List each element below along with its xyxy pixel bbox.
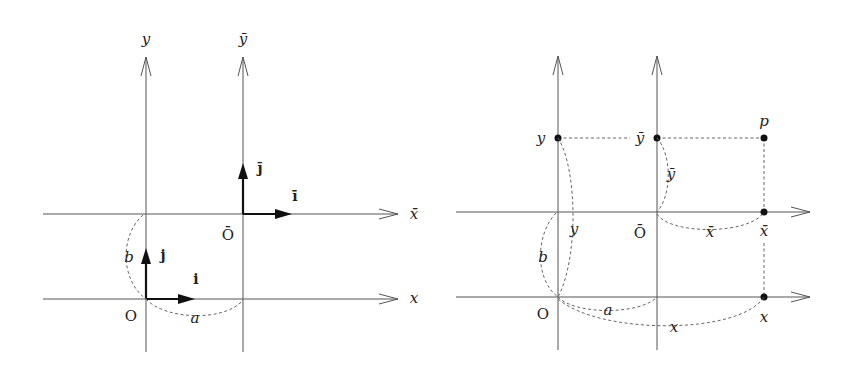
y-distance-label: y (569, 220, 579, 238)
i-bar-arrowhead-icon (275, 209, 292, 219)
b-label: b (124, 248, 134, 266)
i-label: i (193, 271, 198, 287)
y-axis-label: y (141, 30, 151, 48)
j-bar-label: j̄ (255, 160, 262, 176)
y-distance-arc (558, 138, 573, 297)
a-label: a (604, 301, 613, 319)
y-point-label: y (536, 129, 546, 147)
x-axis-label: x (410, 289, 419, 307)
j-arrowhead-icon (141, 248, 151, 264)
origin-O-bar-label: Ō (634, 224, 646, 242)
y-bar-distance-label: ȳ (666, 165, 676, 183)
origin-O-label: O (537, 305, 549, 323)
i-arrowhead-icon (178, 294, 195, 304)
x-bar-distance-label: x̄ (706, 223, 715, 241)
x-bar-axis-label: x̄ (410, 205, 419, 223)
coordinate-translation-diagram: y ȳ x̄ x j i j̄ ī O Ō b a (0, 0, 856, 365)
left-panel: y ȳ x̄ x j i j̄ ī O Ō b a (43, 30, 419, 352)
point-p (761, 135, 768, 142)
b-label: b (538, 248, 548, 266)
x-distance-arc (558, 297, 764, 326)
j-bar-arrowhead-icon (238, 163, 248, 179)
y-bar-axis-label: ȳ (238, 30, 248, 48)
origin-O-label: O (125, 307, 137, 325)
x-bar-point-label: x̄ (760, 222, 769, 240)
x-distance-label: x (670, 318, 679, 336)
right-panel: p y ȳ x̄ x O Ō ȳ y x̄ b a x (456, 56, 810, 350)
y-bar-point-label: ȳ (635, 129, 645, 147)
p-label: p (759, 112, 769, 130)
a-label: a (191, 309, 200, 327)
point-x (761, 294, 768, 301)
origin-O-bar-label: Ō (222, 226, 234, 244)
i-bar-label: ī (292, 188, 297, 204)
j-label: j (158, 247, 165, 263)
x-point-label: x (760, 308, 769, 326)
